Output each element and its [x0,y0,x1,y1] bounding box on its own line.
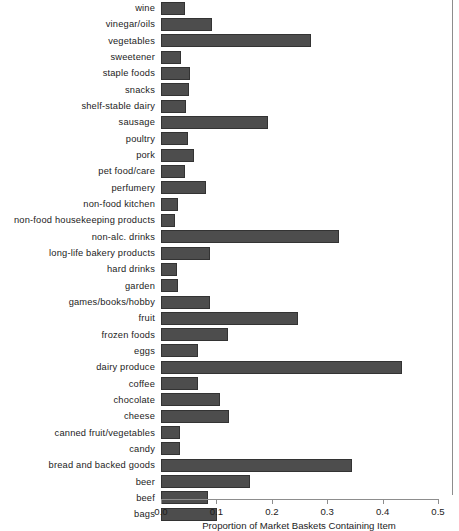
bar-category-label: pork [136,147,155,163]
bar-row: staple foods [0,65,459,81]
bar-row: frozen foods [0,327,459,343]
bar [161,296,210,309]
bar-track [161,279,178,292]
bar [161,426,180,439]
bar-category-label: non-food housekeeping products [14,212,155,228]
bar [161,247,210,260]
bar-track [161,263,177,276]
x-axis-tick-label: 0.2 [265,506,278,517]
x-axis-tick [438,499,439,504]
x-axis-tick-label: 0.0 [154,506,167,517]
x-axis-tick-label: 0.1 [210,506,223,517]
bar [161,475,250,488]
bar-track [161,410,229,423]
bar-track [161,2,185,15]
bar [161,116,268,129]
bar [161,83,189,96]
bar [161,442,180,455]
bar-row: dairy produce [0,359,459,375]
bar-category-label: cheese [124,408,155,424]
bar-row: poultry [0,131,459,147]
bar-row: games/books/hobby [0,294,459,310]
x-axis-tick [216,499,217,504]
bar [161,263,177,276]
bar-row: vegetables [0,33,459,49]
bar-track [161,247,210,260]
bar-row: coffee [0,376,459,392]
bar-category-label: coffee [129,376,155,392]
bar-track [161,230,339,243]
bar [161,149,194,162]
bar-category-label: canned fruit/vegetables [55,425,155,441]
bar [161,2,185,15]
bar-row: cheese [0,408,459,424]
bar-rows-container: winevinegar/oilsvegetablessweetenerstapl… [0,0,459,523]
bar-row: long-life bakery products [0,245,459,261]
bar [161,51,181,64]
bar-row: bread and backed goods [0,457,459,473]
bar [161,198,178,211]
bar-row: fruit [0,310,459,326]
bar-category-label: sausage [119,114,155,130]
bar-track [161,67,190,80]
bar-row: perfumery [0,180,459,196]
x-axis-tick [272,499,273,504]
bar [161,279,178,292]
x-axis-tick-label: 0.5 [431,506,444,517]
bar-category-label: candy [129,441,155,457]
bar-category-label: poultry [126,131,155,147]
bar [161,100,186,113]
bar [161,361,402,374]
x-axis-tick [327,499,328,504]
bar-track [161,475,250,488]
bar-category-label: sweetener [110,49,155,65]
bar-category-label: hard drinks [107,261,155,277]
x-axis-tick [383,499,384,504]
bar-category-label: non-alc. drinks [92,229,155,245]
bar-track [161,442,180,455]
bar-category-label: staple foods [103,65,155,81]
bar-category-label: vegetables [108,33,155,49]
bar-category-label: snacks [125,82,155,98]
bar-category-label: chocolate [114,392,155,408]
bar-category-label: beer [136,474,155,490]
bar-row: garden [0,278,459,294]
bar-row: sausage [0,114,459,130]
bar [161,132,188,145]
bar-category-label: dairy produce [96,359,155,375]
x-axis-line [161,499,438,500]
bar-category-label: bread and backed goods [49,457,155,473]
bar [161,344,198,357]
bar [161,214,175,227]
bar-track [161,459,352,472]
bar-row: hard drinks [0,261,459,277]
bar-track [161,51,181,64]
bar-row: pork [0,147,459,163]
bar-category-label: garden [125,278,155,294]
bar-track [161,34,311,47]
bar-row: non-alc. drinks [0,229,459,245]
bar-row: sweetener [0,49,459,65]
bar-track [161,18,212,31]
bar [161,165,185,178]
bar-track [161,165,185,178]
bar-row: non-food kitchen [0,196,459,212]
bar [161,328,228,341]
bar-category-label: frozen foods [102,327,155,343]
bar-track [161,132,188,145]
bar-category-label: wine [135,0,155,16]
bar-track [161,100,186,113]
bar-row: snacks [0,82,459,98]
bar-track [161,83,189,96]
x-axis-tick-label: 0.4 [376,506,389,517]
bar-row: pet food/care [0,163,459,179]
bar-track [161,181,206,194]
bar-category-label: non-food kitchen [83,196,155,212]
bar [161,312,298,325]
bar-category-label: shelf-stable dairy [81,98,155,114]
x-axis-title: Proportion of Market Baskets Containing … [202,520,396,531]
bar-track [161,214,175,227]
x-axis-tick [161,499,162,504]
bar-row: vinegar/oils [0,16,459,32]
